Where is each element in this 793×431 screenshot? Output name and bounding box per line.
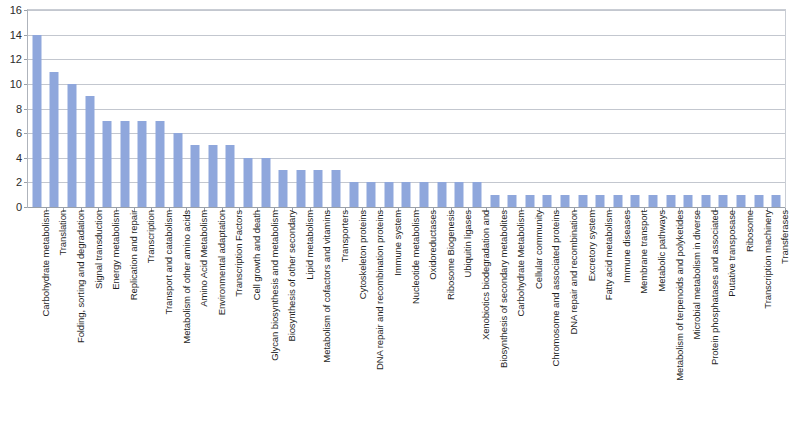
bar-slot	[28, 10, 46, 207]
x-axis-category-label: Metabolism of cofactors and vitamins	[322, 210, 332, 363]
x-axis-category-label: Chromosome and associated proteins	[551, 210, 561, 367]
x-axis-category-label-text: Biosynthesis of other secondary	[287, 210, 297, 342]
x-axis-category-label-text: Amino Acid Metabolism	[199, 210, 209, 307]
x-axis-category-label: Biosynthesis of secondary metabolites	[499, 210, 509, 368]
bar-slot	[591, 10, 609, 207]
x-axis-category-label-text: DNA repair and recombination	[569, 210, 579, 334]
x-axis-category-label: Oxidoreductases	[428, 210, 438, 280]
x-axis-category-label: Cell growth and death	[252, 210, 262, 300]
x-axis-category-label-text: Metabolism of terpenoids and polyketides	[675, 210, 685, 381]
x-axis-category-label-text: Transporters	[340, 210, 350, 262]
x-axis-category-label-text: DNA repair and recombination proteins	[375, 210, 385, 370]
x-axis-category-label-text: Metabolic pathways	[657, 210, 667, 292]
bar	[472, 182, 481, 207]
x-axis-category-label: Biosynthesis of other secondary	[287, 210, 297, 342]
bar	[402, 182, 411, 207]
bar	[666, 195, 675, 207]
bar-slot	[468, 10, 486, 207]
bar-slot	[274, 10, 292, 207]
bar	[156, 121, 165, 207]
bar-slot	[380, 10, 398, 207]
bar	[754, 195, 763, 207]
x-axis-category-label: Energy metabolism	[111, 210, 121, 290]
x-axis-category-label-text: Membrane transport	[639, 210, 649, 294]
bar-slot	[433, 10, 451, 207]
bar-slot	[327, 10, 345, 207]
bar-slot	[574, 10, 592, 207]
y-axis-tick-label: 0	[0, 202, 22, 213]
x-axis-category-label-text: Carbohydrate Metabolism	[516, 210, 526, 316]
x-axis-category-label-text: Transcription Factors	[234, 210, 244, 297]
x-axis-category-label-text: Oxidoreductases	[428, 210, 438, 280]
x-axis-category-label-text: Xenobiotics biodegradation and	[481, 210, 491, 340]
x-axis-category-label: Glycan biosynthesis and metabolism	[270, 210, 280, 361]
bar	[296, 170, 305, 207]
bar-slot	[697, 10, 715, 207]
bar-slot	[539, 10, 557, 207]
bar	[420, 182, 429, 207]
x-axis-category-label: Translation	[58, 210, 68, 256]
x-axis-category-label: Ribosome Biogenesis	[446, 210, 456, 300]
bar-slot	[81, 10, 99, 207]
x-axis-category-label: DNA repair and recombination proteins	[375, 210, 385, 370]
bar	[103, 121, 112, 207]
bar-slot	[116, 10, 134, 207]
x-axis-category-label-text: Transcription machinery	[763, 210, 773, 309]
bar-slot	[644, 10, 662, 207]
x-axis-category-label: Metabolism of terpenoids and polyketides	[675, 210, 685, 381]
bar	[226, 145, 235, 207]
bar	[332, 170, 341, 207]
bar	[191, 145, 200, 207]
x-axis-category-label-text: Ribosome	[745, 210, 755, 252]
x-axis-category-label-text: Microbial metabolism in diverse	[692, 210, 702, 339]
bar-slot	[521, 10, 539, 207]
x-axis-category-label: Metabolic pathways	[657, 210, 667, 292]
bar-chart: 0246810121416 Carbohydrate metabolismTra…	[0, 0, 793, 431]
y-axis-tick-label: 2	[0, 177, 22, 188]
bar-slot	[362, 10, 380, 207]
x-axis-category-label-text: Transferases	[780, 210, 790, 264]
bar-slot	[257, 10, 275, 207]
bar-slot	[151, 10, 169, 207]
x-axis-category-label: Microbial metabolism in diverse	[692, 210, 702, 339]
y-axis-tick-label: 14	[0, 30, 22, 41]
bar-slot	[627, 10, 645, 207]
x-axis-category-label-text: Ubiquitin ligases	[463, 210, 473, 277]
bar-slot	[451, 10, 469, 207]
x-axis-category-label: Carbohydrate Metabolism	[516, 210, 526, 316]
x-axis-category-label: Carbohydrate metabolism	[41, 210, 51, 316]
bar-slot	[134, 10, 152, 207]
x-axis-category-label-text: Replication and repair	[129, 210, 139, 300]
bar-slot	[345, 10, 363, 207]
bar	[596, 195, 605, 207]
x-axis-category-label-text: Transcription	[146, 210, 156, 263]
bar	[314, 170, 323, 207]
bar-slot	[46, 10, 64, 207]
x-axis-category-label: Metabolism of other amino acids	[182, 210, 192, 344]
x-axis-category-label-text: Immune diseases	[622, 210, 632, 283]
x-axis-category-label-text: Biosynthesis of secondary metabolites	[499, 210, 509, 368]
y-axis-tick-label: 12	[0, 54, 22, 65]
bar	[384, 182, 393, 207]
x-axis-category-label: Nucleotide metabolism	[411, 210, 421, 304]
bar	[208, 145, 217, 207]
x-axis-category-label-text: Glycan biosynthesis and metabolism	[270, 210, 280, 361]
x-axis-category-label: Transcription machinery	[763, 210, 773, 309]
x-axis-category-label: Signal transduction	[94, 210, 104, 289]
x-axis-category-label: Lipid metabolism	[305, 210, 315, 280]
x-axis-category-label: Immune system	[393, 210, 403, 276]
x-axis-category-label-text: Translation	[58, 210, 68, 256]
bar-slot	[415, 10, 433, 207]
x-axis-category-label-text: Environmental adaptation	[217, 210, 227, 315]
x-axis-category-label: Immune diseases	[622, 210, 632, 283]
x-axis-category-label: Ribosome	[745, 210, 755, 252]
bar	[261, 158, 270, 207]
bar	[490, 195, 499, 207]
x-axis-category-label-text: Ribosome Biogenesis	[446, 210, 456, 300]
x-axis-category-label-text: Energy metabolism	[111, 210, 121, 290]
x-axis-category-label: Transcription	[146, 210, 156, 263]
x-axis-category-label-text: Cell growth and death	[252, 210, 262, 300]
bar-slot	[767, 10, 785, 207]
x-axis-category-label: DNA repair and recombination	[569, 210, 579, 334]
x-axis-category-label-text: Fatty acid metabolism	[604, 210, 614, 300]
